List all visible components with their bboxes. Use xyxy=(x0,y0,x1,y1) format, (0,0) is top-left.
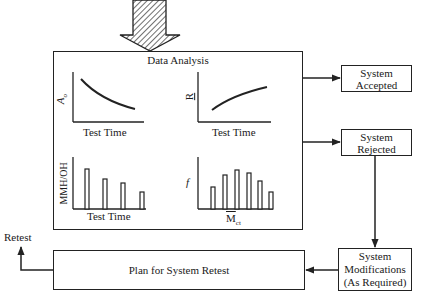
system-accepted-box: System Accepted xyxy=(341,65,412,92)
modifications-line2: Modifications xyxy=(339,262,411,276)
plan-label: Plan for System Retest xyxy=(54,263,304,277)
bar xyxy=(258,181,262,209)
bar xyxy=(235,170,239,209)
retest-label: Retest xyxy=(4,231,32,244)
system-modifications-box: System Modifications (As Required) xyxy=(338,248,412,291)
rejected-line2: Rejected xyxy=(342,142,411,156)
distribution-xlabel: Mct xyxy=(226,212,241,230)
distribution-ylabel: f xyxy=(186,176,189,189)
bar xyxy=(223,175,227,209)
bar xyxy=(247,173,251,209)
bar xyxy=(211,187,215,209)
plan-retest-box: Plan for System Retest xyxy=(53,250,305,290)
accepted-line2: Accepted xyxy=(342,78,411,92)
bar xyxy=(269,192,273,209)
modifications-line3: (As Required) xyxy=(339,275,411,289)
modifications-line1: System xyxy=(339,249,411,263)
system-rejected-box: System Rejected xyxy=(341,129,412,156)
